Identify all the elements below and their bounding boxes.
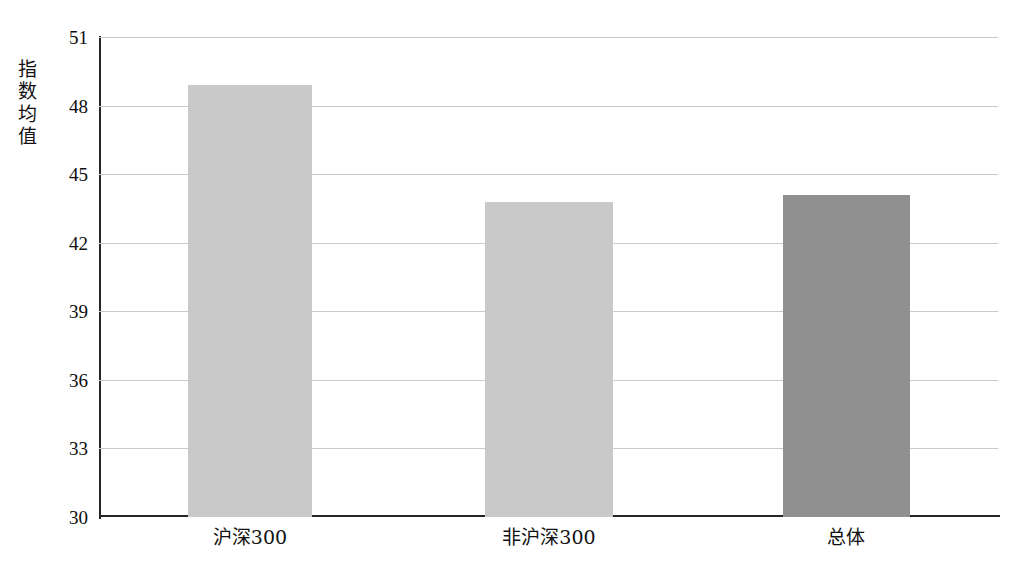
y-tick-label: 45 — [8, 165, 88, 184]
y-tick-label: 33 — [8, 439, 88, 458]
bar-fill — [485, 202, 613, 517]
y-tick-label: 51 — [8, 28, 88, 47]
y-tick-label: 48 — [8, 97, 88, 116]
x-tick-label-2: 总体 — [766, 524, 926, 551]
y-tick-label: 36 — [8, 371, 88, 390]
y-tick-label: 42 — [8, 234, 88, 253]
bar-chart: 指 数 均 值 51 48 45 42 39 36 33 30 沪深300 — [0, 0, 1019, 584]
y-tick-label: 39 — [8, 302, 88, 321]
y-tick-label: 30 — [8, 508, 88, 527]
bar-fill — [188, 85, 312, 517]
bar-fill — [783, 195, 910, 517]
plot-area — [99, 37, 1000, 517]
gridline-51 — [99, 37, 998, 38]
x-axis-tick-labels: 沪深300 非沪深300 总体 — [99, 524, 1000, 564]
x-tick-label-1: 非沪深300 — [469, 524, 629, 551]
bar-huhsen300[interactable] — [188, 85, 312, 517]
x-tick-label-0: 沪深300 — [170, 524, 330, 551]
bar-fei-hushen300[interactable] — [485, 202, 613, 517]
y-axis-tick-labels: 51 48 45 42 39 36 33 30 — [0, 37, 88, 517]
bar-zongti[interactable] — [783, 195, 910, 517]
